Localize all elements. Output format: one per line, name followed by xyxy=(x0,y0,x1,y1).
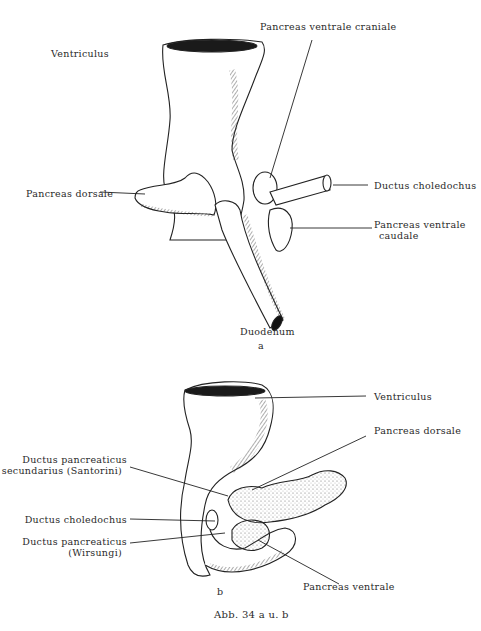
label-pancreas-ventrale-craniale: Pancreas ventrale craniale xyxy=(260,21,396,32)
label-ductus-choledochus-b: Ductus choledochus xyxy=(0,514,127,525)
label-pancreas-ventrale-caudale-line2: caudale xyxy=(379,230,419,241)
label-ductus-wirsungi-line2: (Wirsungi) xyxy=(0,547,122,558)
label-ventriculus-a: Ventriculus xyxy=(51,48,109,59)
figure-caption: Abb. 34 a u. b xyxy=(214,609,289,620)
label-pancreas-dorsale-a: Pancreas dorsale xyxy=(26,188,113,199)
label-ventriculus-b: Ventriculus xyxy=(374,391,432,402)
label-pancreas-dorsale-b: Pancreas dorsale xyxy=(374,425,461,436)
label-ductus-santorini-line1: Ductus pancreaticus xyxy=(0,454,127,465)
figure-b-drawing xyxy=(181,382,347,576)
label-ductus-santorini-line2: secundarius (Santorini) xyxy=(0,465,122,476)
panel-letter-a: a xyxy=(258,340,264,351)
figure-a-drawing xyxy=(135,39,331,332)
label-ductus-choledochus-a: Ductus choledochus xyxy=(374,180,476,191)
label-pancreas-ventrale-b: Pancreas ventrale xyxy=(303,581,395,592)
panel-letter-b: b xyxy=(217,586,223,597)
label-ductus-wirsungi-line1: Ductus pancreaticus xyxy=(0,536,127,547)
label-pancreas-ventrale-caudale-line1: Pancreas ventrale xyxy=(374,219,466,230)
label-duodenum: Duodenum xyxy=(240,326,295,337)
